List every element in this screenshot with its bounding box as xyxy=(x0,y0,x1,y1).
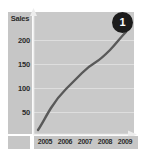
step-number-badge: 1 xyxy=(112,12,133,33)
x-tick-label-2007: 2007 xyxy=(74,138,96,145)
x-tick-label-2005: 2005 xyxy=(34,138,56,145)
y-tick-label-200: 200 xyxy=(6,36,30,45)
x-tick-label-2006: 2006 xyxy=(54,138,76,145)
y-tick-label-50: 50 xyxy=(6,108,30,117)
y-tick-label-100: 100 xyxy=(6,84,30,93)
x-tick-label-2009: 2009 xyxy=(114,138,136,145)
x-tick-label-2008: 2008 xyxy=(94,138,116,145)
y-tick-label-150: 150 xyxy=(6,60,30,69)
axis-corner-block xyxy=(8,136,30,149)
y-axis-title: Sales xyxy=(8,14,32,23)
sales-line-chart-widget: Sales 200 150 100 50 2005 2006 2007 2008… xyxy=(0,0,142,156)
